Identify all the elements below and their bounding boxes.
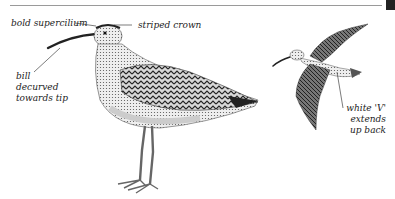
label-supercilium: bold supercilium (11, 18, 88, 29)
label-back-line2: extends (330, 114, 386, 125)
label-bill: bill decurved towards tip (16, 71, 68, 104)
label-bill-line3: towards tip (16, 93, 68, 104)
standing-bird (48, 25, 258, 193)
label-back: white 'V' extends up back (330, 103, 386, 136)
label-crown: striped crown (138, 20, 201, 31)
label-back-line3: up back (330, 125, 386, 136)
label-back-line1: white 'V' (330, 103, 386, 114)
label-bill-line2: decurved (16, 82, 68, 93)
label-bill-line1: bill (16, 71, 68, 82)
